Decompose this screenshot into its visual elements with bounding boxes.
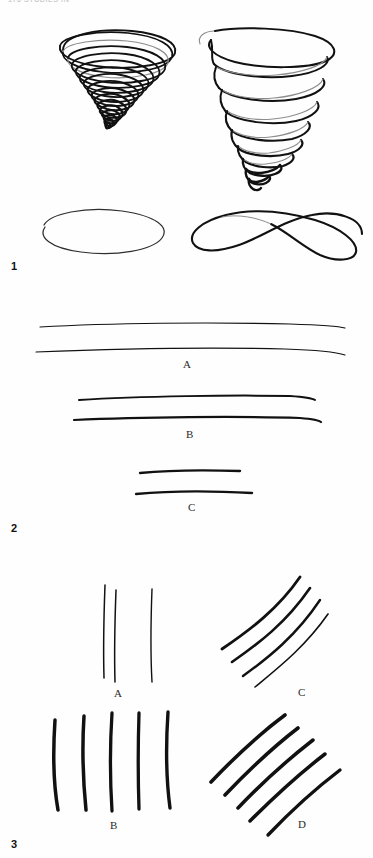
stroke-group-b [54,712,170,811]
stroke-label-b: B [110,819,117,831]
figure-3-number: 3 [11,838,17,850]
figure-2-drawing [0,300,373,550]
group-label-c: C [188,501,195,513]
open-conical-spiral [199,28,334,190]
group-label-b: B [186,428,193,440]
figure-3-drawing [0,552,373,858]
flat-ellipse [43,209,164,253]
stroke-label-a: A [114,687,122,699]
figure-1-drawing [0,12,373,280]
book-page: 176 STUDIES IN [0,0,373,858]
figure-1-number: 1 [11,260,17,272]
figure-2: A B C 2 [0,300,373,550]
stroke-group-d [211,715,340,835]
figure-3: A B C D 3 [0,552,373,858]
tight-conical-spiral [60,30,176,128]
stroke-group-c [222,577,328,687]
lemniscate [192,211,362,259]
group-label-a: A [183,358,191,370]
line-group-c [136,470,252,494]
stroke-label-d: D [298,818,306,830]
line-group-a [36,323,345,355]
stroke-group-a [104,585,152,682]
stroke-label-c: C [298,686,305,698]
figure-2-number: 2 [11,522,17,534]
running-head: 176 STUDIES IN [8,0,69,4]
line-group-b [74,396,321,422]
figure-1: 1 [0,12,373,280]
